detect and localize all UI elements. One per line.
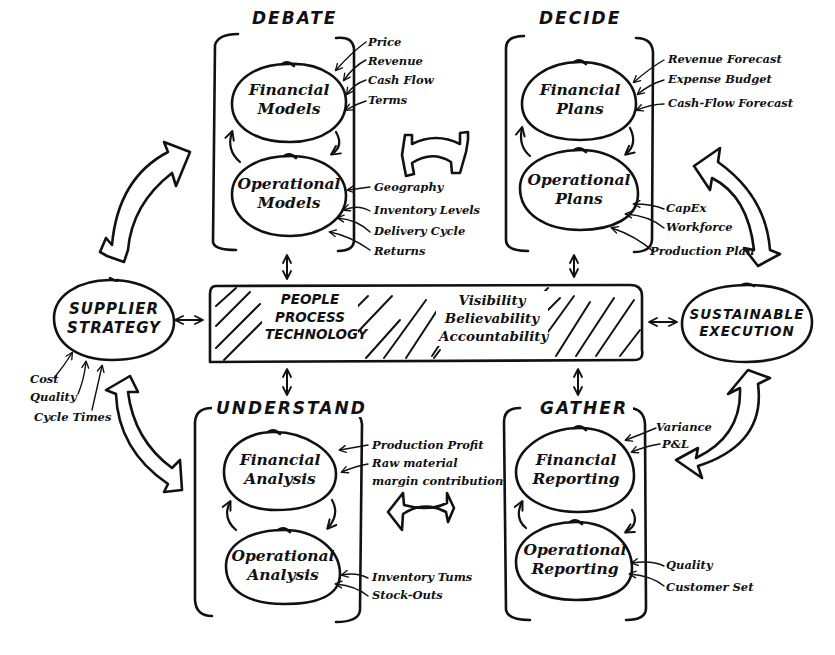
node-operational-models: Operational Models bbox=[234, 174, 344, 213]
phase-title-debate: DEBATE bbox=[247, 10, 342, 27]
note-geography: Geography bbox=[374, 182, 443, 194]
note-cycle-times: Cycle Times bbox=[34, 412, 111, 424]
node-operational-plans: Operational Plans bbox=[522, 170, 636, 209]
note-workforce: Workforce bbox=[666, 222, 733, 234]
center-bar-left-text: PEOPLE PROCESS TECHNOLOGY bbox=[262, 291, 358, 344]
note-production-profit: Production Profit bbox=[372, 440, 484, 452]
center-bar-right-text: Visibility Believability Accountability bbox=[436, 291, 548, 346]
node-financial-plans: Financial Plans bbox=[526, 80, 634, 119]
decide-bracket bbox=[506, 36, 653, 252]
note-p-and-l: P&L bbox=[662, 439, 689, 451]
debate-decide-arrow bbox=[402, 132, 468, 176]
phase-title-decide: DECIDE bbox=[534, 10, 626, 27]
note-stock-outs: Stock-Outs bbox=[372, 590, 443, 602]
note-quality: Quality bbox=[666, 560, 713, 572]
note-terms: Terms bbox=[368, 95, 407, 107]
note-delivery-cycle: Delivery Cycle bbox=[374, 226, 465, 238]
note-price: Price bbox=[368, 37, 401, 49]
note-inventory-turns: Inventory Tums bbox=[372, 572, 472, 584]
note-customer-set: Customer Set bbox=[666, 582, 753, 594]
note-supplier-quality: Quality bbox=[30, 392, 77, 404]
understand-bracket bbox=[195, 408, 362, 622]
note-production-plan: Production Plan bbox=[650, 246, 754, 258]
note-inventory-levels: Inventory Levels bbox=[374, 205, 480, 217]
note-capex: CapEx bbox=[666, 203, 706, 215]
supplier-understand-curved-arrow bbox=[106, 376, 182, 492]
note-revenue: Revenue bbox=[368, 56, 423, 68]
node-sustainable-execution: SUSTAINABLE EXECUTION bbox=[684, 306, 810, 340]
note-returns: Returns bbox=[374, 246, 425, 258]
phase-title-gather: GATHER bbox=[535, 400, 633, 417]
note-cash-flow-forecast: Cash-Flow Forecast bbox=[668, 98, 793, 110]
note-revenue-forecast: Revenue Forecast bbox=[668, 54, 782, 66]
node-financial-analysis: Financial Analysis bbox=[226, 450, 334, 489]
node-supplier-strategy: SUPPLIER STRATEGY bbox=[58, 300, 170, 338]
node-operational-reporting: Operational Reporting bbox=[518, 540, 632, 579]
note-cash-flow: Cash Flow bbox=[368, 75, 434, 87]
understand-gather-arrow bbox=[388, 493, 454, 530]
supplier-debate-curved-arrow bbox=[100, 142, 190, 262]
note-cost: Cost bbox=[30, 374, 59, 386]
node-operational-analysis: Operational Analysis bbox=[228, 546, 338, 585]
note-variance: Variance bbox=[656, 422, 712, 434]
note-raw-material: Raw material bbox=[372, 458, 458, 470]
node-financial-models: Financial Models bbox=[236, 80, 342, 119]
debate-cycle-arrow-up bbox=[230, 132, 240, 162]
note-expense-budget: Expense Budget bbox=[668, 74, 772, 86]
phase-title-understand: UNDERSTAND bbox=[212, 400, 371, 417]
debate-cycle-arrow-down bbox=[332, 132, 339, 154]
node-financial-reporting: Financial Reporting bbox=[520, 450, 632, 489]
note-margin-contribution: margin contribution bbox=[372, 476, 503, 488]
